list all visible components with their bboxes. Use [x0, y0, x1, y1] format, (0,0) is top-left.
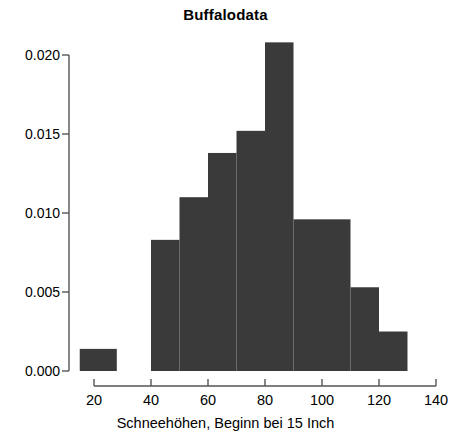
x-axis-tick-label: 120	[367, 392, 391, 408]
bars-group	[80, 42, 408, 371]
histogram-bar	[80, 349, 117, 371]
histogram-bar	[265, 42, 294, 371]
x-axis-tick-label: 40	[143, 392, 159, 408]
y-axis-tick-label: 0.010	[25, 205, 60, 221]
histogram-bar	[322, 219, 351, 371]
x-axis-tick-label: 60	[200, 392, 216, 408]
x-axis-tick-label: 80	[257, 392, 273, 408]
histogram-bar	[208, 153, 237, 371]
x-axis-tick-label: 140	[424, 392, 448, 408]
y-axis-tick-label: 0.000	[25, 363, 60, 379]
y-axis-tick-label: 0.020	[25, 47, 60, 63]
histogram-bar	[351, 287, 380, 371]
plot-area	[0, 0, 451, 443]
x-axis-tick-label: 100	[310, 392, 334, 408]
y-axis-tick-label: 0.005	[25, 284, 60, 300]
histogram-bar	[151, 240, 180, 371]
histogram-bar	[237, 131, 266, 371]
histogram-bar	[294, 219, 323, 371]
x-axis-tick-label: 20	[86, 392, 102, 408]
y-axis-tick-label: 0.015	[25, 126, 60, 142]
histogram-bar	[180, 197, 209, 371]
x-axis-label: Schneehöhen, Beginn bei 15 Inch	[0, 415, 451, 431]
histogram-figure: Buffalodata 0.0000.0050.0100.0150.020 20…	[0, 0, 451, 443]
histogram-bar	[379, 332, 408, 372]
